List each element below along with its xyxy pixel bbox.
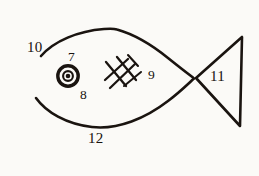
- callout-label-10: 10: [27, 40, 43, 55]
- callout-label-11: 11: [210, 69, 225, 84]
- crosshatch-marks: [105, 55, 141, 88]
- crosshatch-stroke-d: [105, 59, 128, 80]
- callout-label-9: 9: [148, 68, 155, 82]
- eye-pupil: [66, 74, 71, 79]
- callout-label-8: 8: [80, 88, 87, 102]
- body-lower-curve: [36, 79, 194, 128]
- fish-drawing: [0, 0, 259, 176]
- callout-label-7: 7: [68, 50, 75, 64]
- callout-label-12: 12: [88, 131, 104, 146]
- fish-diagram-figure: 10 7 8 9 11 12: [0, 0, 259, 176]
